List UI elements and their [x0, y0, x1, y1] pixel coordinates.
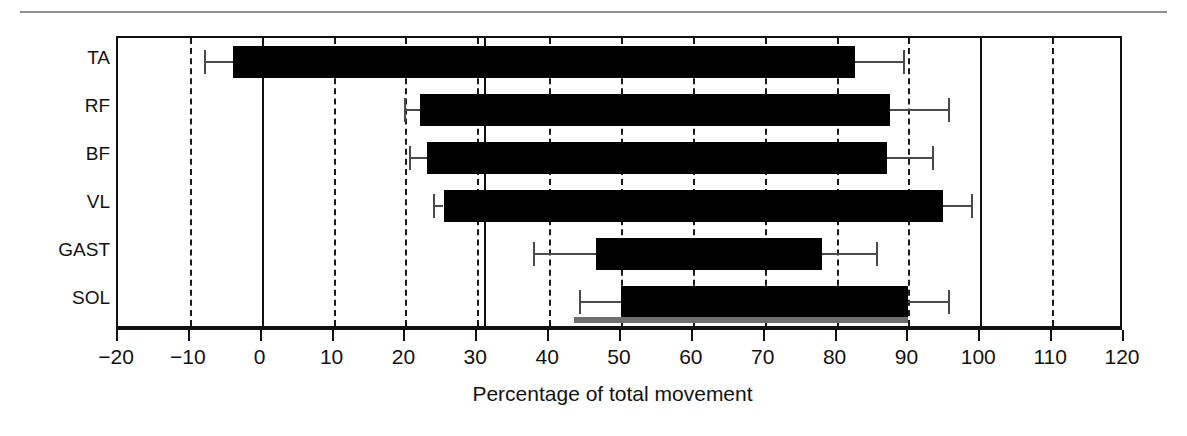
- x-tick-label--10: −10: [170, 345, 206, 369]
- x-tick-label-10: 10: [320, 345, 343, 369]
- bar-row-bf: [118, 138, 1120, 178]
- error-cap-right-bf: [932, 146, 934, 170]
- x-tick-label-30: 30: [464, 345, 487, 369]
- error-bar-right-rf: [890, 109, 950, 111]
- x-tick-label-60: 60: [679, 345, 702, 369]
- x-tick-label-80: 80: [823, 345, 846, 369]
- y-axis-label-bf: BF: [10, 144, 110, 163]
- x-tick-label-40: 40: [535, 345, 558, 369]
- x-tick-0: [260, 330, 262, 341]
- error-cap-left-ta: [204, 50, 206, 74]
- x-tick-label-100: 100: [961, 345, 996, 369]
- bar-row-ta: [118, 42, 1120, 82]
- error-cap-left-gast: [533, 242, 535, 266]
- x-tick-label-0: 0: [254, 345, 266, 369]
- error-cap-left-sol: [579, 290, 581, 314]
- x-tick-label-110: 110: [1033, 345, 1066, 369]
- x-tick--10: [188, 330, 190, 341]
- bar-row-rf: [118, 90, 1120, 130]
- x-tick-label--20: −20: [98, 345, 134, 369]
- bar-row-vl: [118, 186, 1120, 226]
- bar-row-sol: [118, 282, 1120, 322]
- x-tick-label-50: 50: [607, 345, 630, 369]
- error-bar-left-sol: [579, 301, 621, 303]
- error-cap-left-rf: [404, 98, 406, 122]
- error-bar-left-ta: [204, 61, 233, 63]
- x-tick-label-90: 90: [895, 345, 918, 369]
- bar-bf: [427, 142, 887, 174]
- x-tick-90: [906, 330, 908, 341]
- error-cap-left-vl: [433, 194, 435, 218]
- error-cap-right-sol: [948, 290, 950, 314]
- x-tick-70: [763, 330, 765, 341]
- error-bar-right-ta: [855, 61, 905, 63]
- error-cap-left-bf: [409, 146, 411, 170]
- error-cap-right-vl: [971, 194, 973, 218]
- y-axis-label-gast: GAST: [10, 240, 110, 259]
- x-axis-title: Percentage of total movement: [0, 382, 1187, 406]
- x-tick-label-20: 20: [392, 345, 415, 369]
- x-axis-title-text: Percentage of total movement: [472, 382, 752, 406]
- error-bar-right-sol: [908, 301, 950, 303]
- error-cap-right-ta: [903, 50, 905, 74]
- chart-figure: TA RF BF VL GAST SOL −20−100102030405060…: [0, 0, 1187, 436]
- y-axis-label-sol: SOL: [10, 288, 110, 307]
- x-tick-label-120: 120: [1104, 345, 1139, 369]
- bar-gast: [596, 238, 822, 270]
- x-tick-60: [691, 330, 693, 341]
- x-tick-40: [547, 330, 549, 341]
- x-tick-80: [835, 330, 837, 341]
- x-tick-label-70: 70: [751, 345, 774, 369]
- x-tick-30: [475, 330, 477, 341]
- bar-vl: [444, 190, 943, 222]
- x-tick--20: [116, 330, 118, 341]
- x-tick-20: [403, 330, 405, 341]
- bar-sol: [621, 286, 908, 318]
- x-tick-50: [619, 330, 621, 341]
- x-tick-110: [1050, 330, 1052, 341]
- error-bar-right-bf: [887, 157, 934, 159]
- bar-ta: [233, 46, 855, 78]
- bar-row-gast: [118, 234, 1120, 274]
- y-axis-label-vl: VL: [10, 192, 110, 211]
- error-bar-left-bf: [409, 157, 427, 159]
- x-tick-120: [1122, 330, 1124, 341]
- x-tick-100: [978, 330, 980, 341]
- error-bar-right-vl: [943, 205, 973, 207]
- plot-area: [116, 36, 1122, 328]
- grey-reference-bar: [574, 317, 908, 323]
- error-cap-right-gast: [876, 242, 878, 266]
- error-bar-left-gast: [533, 253, 596, 255]
- error-bar-right-gast: [822, 253, 878, 255]
- x-tick-10: [332, 330, 334, 341]
- y-axis-label-ta: TA: [10, 48, 110, 67]
- bar-rf: [420, 94, 891, 126]
- y-axis-label-rf: RF: [10, 96, 110, 115]
- y-axis-labels: TA RF BF VL GAST SOL: [6, 36, 110, 328]
- error-bar-left-rf: [404, 109, 420, 111]
- error-cap-right-rf: [948, 98, 950, 122]
